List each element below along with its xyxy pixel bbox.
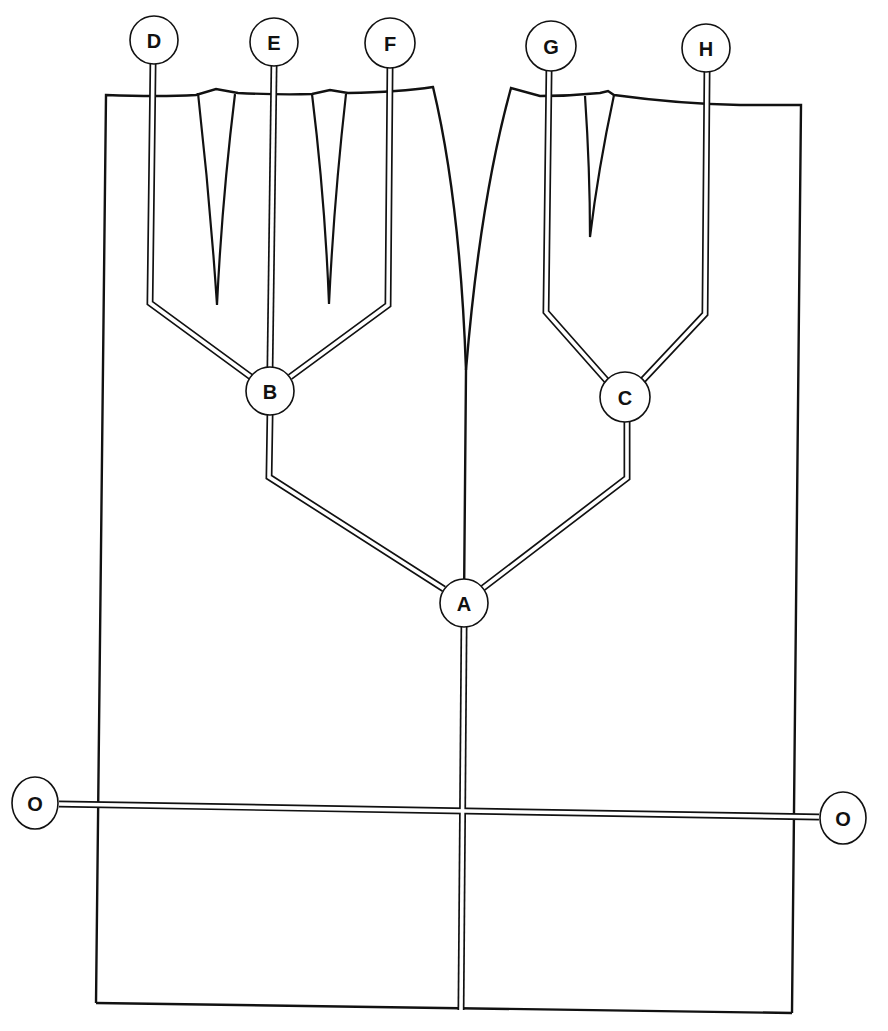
dart-left-2 (312, 94, 346, 304)
node-label-H: H (699, 38, 713, 60)
node-label-O-right: O (835, 808, 851, 830)
node-label-D: D (147, 30, 161, 52)
node-O-left: O (12, 777, 58, 829)
node-D: D (130, 16, 178, 64)
node-O-right: O (820, 792, 866, 844)
node-F: F (365, 18, 415, 68)
dart-left-1 (198, 93, 235, 305)
node-A: A (440, 579, 488, 627)
hem-line (96, 1003, 792, 1013)
node-C: C (600, 372, 650, 422)
node-label-G: G (543, 36, 559, 58)
node-label-B: B (263, 381, 277, 403)
node-label-O-left: O (27, 793, 43, 815)
node-E: E (250, 18, 298, 66)
node-label-E: E (267, 32, 280, 54)
node-B: B (246, 367, 294, 415)
diagram-canvas: A B C D E F G H O O (0, 0, 888, 1031)
right-piece-outline (466, 88, 801, 1013)
node-label-A: A (457, 593, 471, 615)
node-H: H (682, 24, 730, 72)
node-label-F: F (384, 33, 396, 55)
node-G: G (526, 21, 576, 71)
pattern-outline (96, 87, 801, 1013)
rails (59, 64, 819, 1010)
dart-right-1 (585, 95, 614, 237)
node-label-C: C (618, 387, 632, 409)
